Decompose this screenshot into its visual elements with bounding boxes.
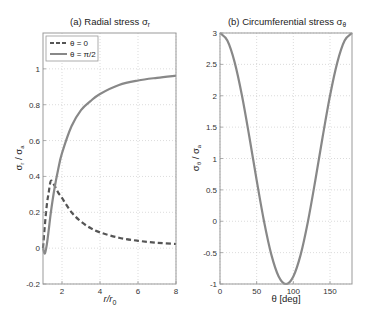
chart-b-title: (b) Circumferential stress σθ: [228, 16, 347, 28]
chart-b-grid: [220, 33, 352, 284]
chart-a-ylabel: σr / σa: [13, 145, 25, 171]
chart-a-grid: [43, 33, 176, 284]
y-tick-label: 0.8: [29, 101, 41, 110]
chart-a-ticks: 2468-0.200.20.40.60.81: [26, 65, 179, 296]
y-tick-label: -1: [210, 280, 218, 289]
chart-b-xlabel: θ [deg]: [271, 293, 300, 304]
y-tick-label: 2: [213, 92, 218, 101]
chart-b-ylabel: σθ / σa: [190, 144, 202, 171]
x-tick-label: 8: [174, 287, 179, 296]
y-tick-label: 0.5: [206, 186, 218, 195]
x-tick-label: 4: [98, 287, 103, 296]
chart-a-title: (a) Radial stress σr: [70, 16, 151, 28]
y-tick-label: -0.5: [203, 249, 217, 258]
y-tick-label: 2.5: [206, 60, 218, 69]
y-tick-label: 0.6: [29, 137, 41, 146]
y-tick-label: 0.4: [29, 172, 41, 181]
x-tick-label: 2: [60, 287, 65, 296]
y-tick-label: 1: [213, 155, 218, 164]
y-tick-label: 1.5: [206, 123, 218, 132]
x-tick-label: 6: [136, 287, 141, 296]
y-tick-label: 3: [213, 29, 218, 38]
chart-a-axes-box: [43, 33, 176, 284]
x-tick-label: 0: [218, 287, 223, 296]
radial-stress-chart: (a) Radial stress σr 2468-0.200.20.40.60…: [13, 16, 179, 306]
legend-entry-1: θ = 0: [70, 39, 89, 48]
legend-entry-2: θ = π/2: [70, 50, 96, 59]
x-tick-label: 150: [323, 287, 337, 296]
y-tick-label: -0.2: [26, 280, 40, 289]
y-tick-label: 0: [36, 244, 41, 253]
y-tick-label: 1: [36, 65, 41, 74]
circumferential-stress-chart: (b) Circumferential stress σθ 050100150-…: [190, 16, 352, 304]
chart-b-ticks: 050100150-1-0.500.511.522.53: [203, 29, 337, 296]
chart-a-series: [43, 76, 176, 254]
chart-a-xlabel: r/r0: [104, 293, 117, 306]
y-tick-label: 0: [213, 217, 218, 226]
chart-a-series-2-line: [43, 76, 176, 254]
chart-a-legend: θ = 0 θ = π/2: [46, 36, 98, 61]
y-tick-label: 0.2: [29, 208, 41, 217]
figure: (a) Radial stress σr 2468-0.200.20.40.60…: [0, 0, 369, 321]
chart-a-series-1-line: [43, 181, 176, 248]
x-tick-label: 50: [252, 287, 261, 296]
